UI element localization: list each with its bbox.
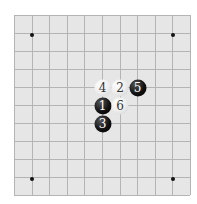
grid-line-vertical [155,15,156,195]
black-stone-1[interactable]: 1 [94,97,111,114]
white-stone-4[interactable]: 4 [94,79,111,96]
grid-line-vertical [137,15,138,195]
grid-line-horizontal [14,177,190,178]
white-stone-2[interactable]: 2 [112,79,129,96]
grid-line-horizontal [14,159,190,160]
grid-line-vertical [190,15,191,195]
star-point [30,177,34,181]
star-point [171,177,175,181]
black-stone-3[interactable]: 3 [94,115,111,132]
black-stone-5[interactable]: 5 [129,79,146,96]
grid-line-vertical [172,15,173,195]
grid-line-horizontal [14,195,190,196]
white-stone-6[interactable]: 6 [112,97,129,114]
star-point [171,33,175,37]
grid-line-horizontal [14,141,190,142]
go-board[interactable]: 123456 [14,15,190,195]
star-point [30,33,34,37]
